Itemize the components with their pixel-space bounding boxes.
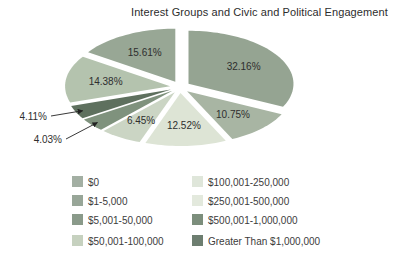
legend-label: $100,001-250,000 <box>208 177 289 188</box>
pie-chart-figure: Interest Groups and Civic and Political … <box>0 0 409 257</box>
legend-swatch <box>192 214 203 225</box>
legend-swatch <box>192 195 203 206</box>
legend-label: $0 <box>88 177 99 188</box>
legend-label: $1-5,000 <box>88 196 127 207</box>
legend-label: $50,001-100,000 <box>88 236 164 247</box>
legend-swatch <box>72 195 83 206</box>
legend-label: $500,001-1,000,000 <box>208 215 298 226</box>
legend-label: $250,001-500,000 <box>208 196 289 207</box>
legend-swatch <box>72 214 83 225</box>
legend-swatch <box>192 235 203 246</box>
legend-swatch <box>72 176 83 187</box>
legend-label: Greater Than $1,000,000 <box>208 236 320 247</box>
chart-legend: $0$1-5,000$5,001-50,000$50,001-100,000$1… <box>0 0 409 257</box>
legend-swatch <box>72 235 83 246</box>
legend-label: $5,001-50,000 <box>88 215 153 226</box>
legend-swatch <box>192 176 203 187</box>
